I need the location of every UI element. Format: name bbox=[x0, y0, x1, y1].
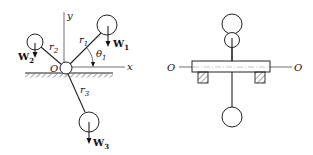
mass-top-far bbox=[222, 14, 242, 34]
left-diagram: y x W1 r1 θ1 W2 r2 W3 r3 O bbox=[17, 10, 133, 151]
pivot bbox=[60, 62, 72, 74]
angle-arrowhead-icon bbox=[91, 62, 95, 67]
axis-right-label: O bbox=[294, 62, 302, 73]
axis-left-label: O bbox=[167, 62, 175, 73]
figure: y x W1 r1 θ1 W2 r2 W3 r3 O bbox=[0, 0, 313, 155]
arm-label-r3: r3 bbox=[80, 84, 90, 98]
weight-label-2: W2 bbox=[17, 51, 34, 65]
weight-label-3: W3 bbox=[92, 137, 109, 151]
bearing-left bbox=[198, 72, 208, 83]
angle-label: θ1 bbox=[96, 48, 107, 62]
arm-label-r2: r2 bbox=[49, 41, 59, 55]
origin-label: O bbox=[50, 63, 58, 74]
bearing-right bbox=[255, 72, 265, 83]
mass-1 bbox=[97, 15, 117, 35]
arrowhead-icon bbox=[106, 41, 111, 47]
shaft bbox=[192, 61, 270, 72]
y-axis-label: y bbox=[66, 10, 73, 21]
arm-label-r1: r1 bbox=[79, 34, 88, 48]
mass-bottom bbox=[222, 107, 242, 127]
arrowhead-icon bbox=[87, 138, 92, 144]
x-axis-label: x bbox=[127, 61, 133, 72]
right-diagram: O O bbox=[167, 14, 302, 127]
weight-label-1: W1 bbox=[112, 38, 129, 52]
